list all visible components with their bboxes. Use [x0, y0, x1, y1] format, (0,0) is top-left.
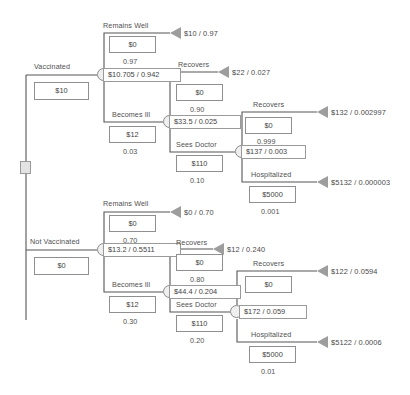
terminal-payoff-vacc-remains-well: $10 / 0.97	[184, 29, 218, 38]
root-decision-node[interactable]	[20, 161, 31, 174]
prob-label-nv-remains-well: 0.70	[123, 236, 137, 245]
branch-label-vacc-doc-recovers: Recovers	[253, 100, 284, 109]
terminal-node-icon-vacc-doc-recovers	[317, 106, 328, 118]
prob-label-nv-ill-sees-doctor: 0.20	[190, 336, 204, 345]
cost-box-vacc-ill-sees-doctor: $110	[176, 155, 223, 172]
cost-box-nv-remains-well: $0	[109, 215, 156, 232]
prob-label-vacc-becomes-ill: 0.03	[123, 147, 137, 156]
terminal-payoff-nv-remains-well: $0 / 0.70	[184, 208, 214, 217]
terminal-node-icon-vacc-ill-recovers	[218, 66, 229, 78]
branch-label-vacc-ill-sees-doctor: Sees Doctor	[176, 140, 217, 149]
branch-label-nv-becomes-ill: Becomes Ill	[112, 280, 150, 289]
cost-box-vacc-doc-recovers: $0	[245, 117, 292, 134]
cost-box-vacc-doc-hospitalized: $5000	[249, 186, 296, 203]
terminal-node-icon-nv-remains-well	[170, 206, 181, 218]
terminal-node-icon-vacc-doc-hospitalized	[317, 176, 328, 188]
value-box-vacc-sees-doctor: $137 / 0.003	[241, 145, 306, 159]
prob-label-vacc-ill-recovers: 0.90	[190, 105, 204, 114]
value-box-nv-sees-doctor: $172 / 0.059	[239, 305, 307, 319]
terminal-payoff-nv-doc-recovers: $122 / 0.0594	[331, 267, 378, 276]
cost-box-nv-becomes-ill: $12	[109, 296, 156, 313]
branch-label-nv-ill-recovers: Recovers	[176, 238, 207, 247]
prob-label-nv-doc-hospitalized: 0.01	[261, 367, 275, 376]
branch-label-nv-remains-well: Remains Well	[103, 199, 148, 208]
cost-box-vaccinated: $10	[34, 82, 89, 100]
prob-label-vacc-doc-hospitalized: 0.001	[261, 207, 280, 216]
value-box-not-vaccinated: $13.2 / 0.5511	[103, 243, 181, 257]
branch-label-nv-ill-sees-doctor: Sees Doctor	[176, 300, 217, 309]
branch-label-vacc-remains-well: Remains Well	[103, 21, 148, 30]
prob-label-nv-becomes-ill: 0.30	[123, 317, 137, 326]
cost-box-vacc-ill-recovers: $0	[176, 84, 223, 101]
cost-box-nv-ill-sees-doctor: $110	[176, 315, 223, 332]
cost-box-nv-doc-recovers: $0	[245, 276, 292, 293]
terminal-payoff-vacc-doc-hospitalized: $5132 / 0.000003	[331, 178, 390, 187]
cost-box-vacc-becomes-ill: $12	[109, 126, 156, 143]
terminal-node-icon-vacc-remains-well	[170, 27, 181, 39]
cost-box-nv-doc-hospitalized: $5000	[249, 346, 296, 363]
branch-label-not-vaccinated: Not Vaccinated	[30, 237, 80, 246]
terminal-node-icon-nv-doc-recovers	[317, 265, 328, 277]
terminal-payoff-nv-ill-recovers: $12 / 0.240	[227, 245, 265, 254]
prob-label-vacc-doc-recovers: 0.999	[257, 137, 276, 146]
branch-label-vacc-becomes-ill: Becomes Ill	[112, 110, 150, 119]
prob-label-vacc-ill-sees-doctor: 0.10	[190, 176, 204, 185]
decision-tree-diagram: Vaccinated $10 $10.705 / 0.942 Remains W…	[0, 0, 410, 395]
terminal-payoff-vacc-doc-recovers: $132 / 0.002997	[331, 108, 386, 117]
terminal-node-icon-nv-ill-recovers	[213, 243, 224, 255]
cost-box-nv-ill-recovers: $0	[176, 254, 223, 271]
cost-box-vacc-remains-well: $0	[109, 36, 156, 53]
terminal-node-icon-nv-doc-hospitalized	[317, 336, 328, 348]
branch-label-vacc-ill-recovers: Recovers	[178, 60, 209, 69]
cost-box-not-vaccinated: $0	[34, 257, 89, 275]
terminal-payoff-nv-doc-hospitalized: $5122 / 0.0006	[331, 338, 382, 347]
branch-label-nv-doc-recovers: Recovers	[253, 259, 284, 268]
branch-label-nv-doc-hospitalized: Hospitalized	[251, 330, 291, 339]
branch-label-vaccinated: Vaccinated	[34, 62, 70, 71]
prob-label-vacc-remains-well: 0.97	[123, 57, 137, 66]
terminal-payoff-vacc-ill-recovers: $22 / 0.027	[232, 68, 270, 77]
prob-label-nv-ill-recovers: 0.80	[190, 275, 204, 284]
value-box-vacc-becomes-ill: $33.5 / 0.025	[169, 115, 241, 129]
value-box-vaccinated: $10.705 / 0.942	[103, 68, 181, 82]
branch-label-vacc-doc-hospitalized: Hospitalized	[251, 170, 291, 179]
value-box-nv-becomes-ill: $44.4 / 0.204	[169, 285, 241, 299]
